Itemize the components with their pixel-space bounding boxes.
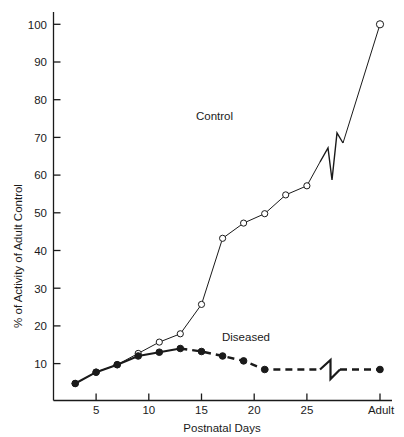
y-tick-label-100: 100 (28, 19, 47, 31)
control-point-d12 (177, 331, 183, 337)
x-tick-label-25: 25 (301, 404, 314, 416)
y-tick-label-20: 20 (34, 320, 47, 332)
x-axis-title: Postnatal Days (183, 422, 261, 434)
diseased-point-d18 (240, 358, 247, 365)
series-diseased (72, 345, 383, 387)
y-tick-label-50: 50 (34, 207, 47, 219)
control-point-d22 (283, 192, 289, 198)
diseased-point-d8 (135, 353, 142, 360)
y-tick-label-80: 80 (34, 94, 47, 106)
control-point-d20 (262, 211, 268, 217)
y-tick-label-30: 30 (34, 283, 47, 295)
x-tick-labels: 5 10 15 20 25 Adult (93, 404, 395, 416)
diseased-point-adult (377, 366, 384, 373)
diseased-point-d16 (219, 353, 226, 360)
diseased-point-d12 (177, 345, 184, 352)
control-axis-break-icon (320, 133, 343, 180)
diseased-point-d20 (261, 366, 268, 373)
y-tick-label-90: 90 (34, 56, 47, 68)
diseased-point-d6 (114, 361, 121, 368)
chart-figure: 100 90 80 70 60 50 40 30 20 10 5 10 15 2… (0, 0, 404, 437)
control-point-adult (376, 21, 383, 28)
diseased-line-segment-1 (75, 349, 180, 384)
diseased-point-d14 (198, 348, 205, 355)
control-point-d14 (198, 301, 204, 307)
y-axis-title: % of Activity of Adult Control (12, 184, 24, 328)
control-point-d16 (220, 235, 226, 241)
y-tick-label-70: 70 (34, 132, 47, 144)
y-tick-marks (54, 24, 61, 363)
control-point-d10 (156, 339, 162, 345)
x-tick-label-5: 5 (93, 404, 99, 416)
diseased-axis-break-icon (320, 360, 340, 379)
x-tick-label-adult: Adult (368, 404, 395, 416)
y-tick-label-60: 60 (34, 169, 47, 181)
y-tick-labels: 100 90 80 70 60 50 40 30 20 10 (28, 19, 47, 370)
control-point-d18 (241, 220, 247, 226)
y-tick-label-10: 10 (34, 358, 47, 370)
x-tick-label-15: 15 (195, 404, 208, 416)
y-tick-label-40: 40 (34, 245, 47, 257)
diseased-point-d10 (156, 349, 163, 356)
x-tick-marks (96, 394, 380, 401)
x-tick-label-10: 10 (142, 404, 155, 416)
diseased-markers (72, 345, 383, 387)
chart-svg: 100 90 80 70 60 50 40 30 20 10 5 10 15 2… (0, 0, 404, 437)
x-tick-label-20: 20 (248, 404, 261, 416)
diseased-point-d4 (93, 369, 100, 376)
diseased-point-d2 (72, 380, 79, 387)
diseased-series-label: Diseased (222, 331, 270, 343)
control-line-segment-2 (343, 24, 380, 143)
control-series-label: Control (196, 110, 233, 122)
control-point-d27 (304, 183, 310, 189)
